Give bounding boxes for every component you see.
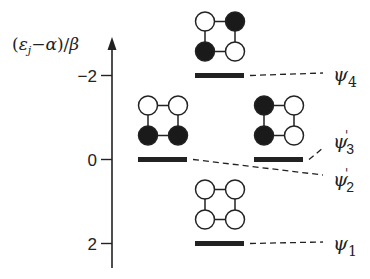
orbital-label: ψ'3 — [333, 129, 354, 157]
leader-line — [250, 242, 323, 244]
axis-title-beta: β — [68, 34, 79, 54]
atom-filled-icon — [139, 126, 158, 145]
energy-level-bar — [195, 241, 244, 246]
atom-empty-icon — [226, 180, 245, 199]
tick-label: 0 — [88, 151, 97, 170]
atom-filled-icon — [255, 126, 274, 145]
energy-level-bar — [138, 157, 187, 162]
tick-label: −2 — [78, 67, 97, 86]
atom-filled-icon — [196, 42, 215, 61]
tick-label: 2 — [88, 235, 97, 254]
level-psi4: ψ4 — [195, 12, 357, 90]
energy-level-bar — [195, 73, 244, 78]
axis-title-epsilon: ε — [19, 34, 28, 54]
atom-filled-icon — [169, 126, 188, 145]
atom-empty-icon — [285, 96, 304, 115]
mo-energy-diagram: (εj−α)/β −202 ψ4ψ'2ψ'3ψ1 — [0, 0, 370, 279]
atom-empty-icon — [226, 210, 245, 229]
atom-empty-icon — [139, 96, 158, 115]
orbital-label-subscript: 4 — [348, 74, 357, 90]
leader-line — [309, 148, 323, 160]
level-psi2p: ψ'2 — [138, 96, 354, 195]
atom-empty-icon — [169, 96, 188, 115]
atom-empty-icon — [285, 126, 304, 145]
orbital-label: ψ'2 — [333, 167, 354, 195]
axis-title-open: ( — [12, 34, 19, 54]
atom-filled-icon — [255, 96, 274, 115]
orbital-label-psi: ψ — [333, 63, 349, 85]
level-psi1: ψ1 — [195, 180, 357, 259]
orbital-label: ψ1 — [333, 232, 357, 259]
orbital-label: ψ4 — [333, 63, 357, 90]
energy-level-bar — [254, 157, 303, 162]
orbital-label-subscript: 1 — [348, 243, 357, 259]
atom-empty-icon — [226, 42, 245, 61]
axis-title: (εj−α)/β — [12, 34, 79, 57]
axis-title-minus: − — [31, 34, 45, 54]
orbital-label-subscript: 2 — [346, 179, 354, 195]
axis-arrow-icon — [108, 37, 117, 50]
atom-filled-icon — [226, 12, 245, 31]
atom-empty-icon — [196, 180, 215, 199]
orbital-label-subscript: 3 — [346, 141, 354, 157]
atom-empty-icon — [196, 12, 215, 31]
level-psi3p: ψ'3 — [254, 96, 354, 162]
orbital-label-psi: ψ — [333, 232, 349, 254]
axis-title-close: )/ — [57, 34, 70, 54]
atom-empty-icon — [196, 210, 215, 229]
axis-title-alpha: α — [45, 34, 57, 54]
leader-line — [250, 73, 323, 76]
